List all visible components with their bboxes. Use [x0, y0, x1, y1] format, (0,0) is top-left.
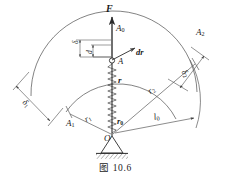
- label-radius-r0: r0: [117, 117, 123, 127]
- pin-support: [96, 136, 128, 159]
- label-d: d: [86, 50, 94, 54]
- figure-container: F A0 A2 A1 A O r dr r0 r1 r2 l0 δ d δ1 δ…: [0, 0, 231, 181]
- label-point-a1: A1: [66, 119, 75, 128]
- label-vector-r: r: [118, 76, 122, 85]
- label-delta: δ: [72, 41, 80, 45]
- figure-caption: 图 10.6: [0, 160, 231, 174]
- dimension-delta1: [13, 72, 63, 126]
- label-force-F: F: [106, 4, 113, 14]
- label-origin-O: O: [104, 134, 111, 143]
- label-point-a: A: [118, 57, 123, 66]
- arc-l0-boundary: [190, 60, 200, 128]
- dimension-d: [91, 45, 111, 57]
- label-point-a0: A0: [116, 24, 125, 33]
- spring-coil: [108, 64, 116, 133]
- dimension-delta: [76, 40, 111, 57]
- label-vector-dr: dr: [136, 48, 144, 57]
- label-point-a2: A2: [196, 28, 205, 37]
- dr-vector-arrow: [112, 48, 135, 60]
